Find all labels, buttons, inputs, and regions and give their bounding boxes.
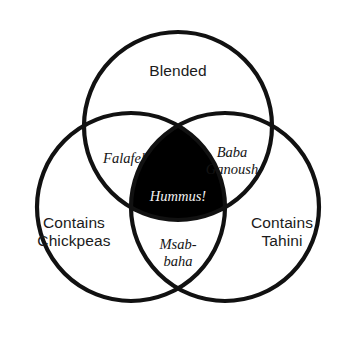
venn-diagram: Blended Contains Chickpeas Contains Tahi… bbox=[0, 0, 356, 350]
venn-diagram-graphic bbox=[0, 0, 356, 350]
